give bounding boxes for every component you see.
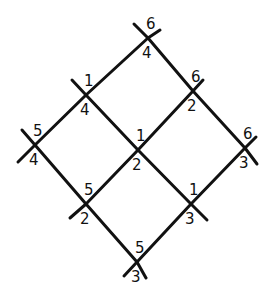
edge-n11-n12 — [138, 150, 191, 204]
label-above-n11: 1 — [136, 127, 146, 145]
label-below-n02: 3 — [239, 154, 249, 172]
label-above-n12: 1 — [189, 181, 199, 199]
edge-n12-n02 — [191, 148, 245, 204]
edge-n00-n01 — [148, 38, 193, 91]
edge-n20-n10 — [35, 95, 86, 145]
edge-n20-n21 — [35, 145, 86, 204]
label-below-n10: 4 — [80, 101, 90, 119]
lattice-diagram: 641462541263521353 — [0, 0, 274, 305]
label-above-n01: 6 — [191, 68, 201, 86]
label-below-n01: 2 — [187, 97, 197, 115]
label-below-n11: 2 — [132, 156, 142, 174]
edge-n22-n12 — [137, 204, 191, 262]
edge-n01-n02 — [193, 91, 245, 148]
label-above-n10: 1 — [84, 72, 94, 90]
label-below-n21: 2 — [80, 210, 90, 228]
label-above-n02: 6 — [243, 125, 253, 143]
edge-n11-n01 — [138, 91, 193, 150]
grid-lines — [35, 38, 245, 262]
edge-n10-n00 — [86, 38, 148, 95]
edge-n21-n22 — [86, 204, 137, 262]
label-above-n21: 5 — [84, 181, 94, 199]
label-above-n00: 6 — [146, 15, 156, 33]
label-below-n22: 3 — [131, 268, 141, 286]
label-below-n00: 4 — [142, 44, 152, 62]
edge-n21-n11 — [86, 150, 138, 204]
label-above-n20: 5 — [33, 122, 43, 140]
label-below-n20: 4 — [29, 151, 39, 169]
edge-n10-n11 — [86, 95, 138, 150]
label-below-n12: 3 — [185, 210, 195, 228]
label-above-n22: 5 — [135, 239, 145, 257]
node-labels: 641462541263521353 — [29, 15, 253, 286]
